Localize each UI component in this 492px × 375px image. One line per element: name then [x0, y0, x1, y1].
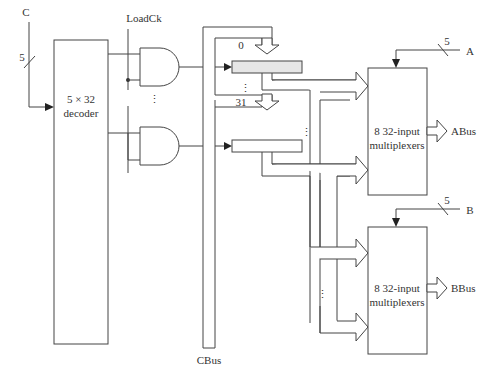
mux-b-label-line2: multiplexers: [370, 296, 425, 308]
and-gate-icon: [140, 127, 179, 165]
registers-ellipsis: ⋮: [240, 82, 251, 94]
register-31-label: 31: [236, 96, 247, 108]
b-width-label: 5: [444, 194, 450, 206]
mux-b-inputs-ellipsis: ⋮: [317, 288, 328, 300]
cbus: CBus: [197, 27, 272, 366]
arrow-head-icon: [45, 103, 54, 111]
c-input: C 5: [19, 6, 54, 111]
register-31-box: [232, 140, 302, 152]
register-0-box: [232, 61, 302, 73]
gates-ellipsis: ⋮: [149, 93, 160, 105]
mux-a-label-line1: 8 32-input: [374, 125, 420, 137]
decoder-box: [54, 40, 108, 344]
cbus-label: CBus: [197, 354, 221, 366]
decoder-block: 5 × 32 decoder: [54, 40, 108, 344]
register-31: 31: [215, 94, 302, 152]
bus-arrow-down-icon: [255, 94, 279, 110]
bus-arrow-down-icon: [255, 38, 279, 54]
bus-arrow-right-icon: [427, 120, 447, 142]
mux-a-inputs-ellipsis: ⋮: [301, 126, 312, 138]
arrow-head-icon: [392, 59, 400, 68]
abus-label: ABus: [451, 125, 476, 137]
mux-b-label-line1: 8 32-input: [374, 282, 420, 294]
decoder-label-line2: decoder: [64, 107, 99, 119]
register-0-outputs: [262, 73, 356, 247]
a-width-label: 5: [444, 35, 450, 47]
mux-a-label-line2: multiplexers: [370, 139, 425, 151]
c-label: C: [22, 6, 29, 18]
bus-arrow-right-icon: [310, 239, 368, 267]
bus-arrow-right-icon: [272, 72, 368, 100]
and-gate-icon: [140, 48, 179, 86]
bus-arrow-right-icon: [427, 277, 447, 299]
loadck-label: LoadCk: [126, 12, 162, 24]
arrow-head-icon: [224, 63, 232, 71]
bus-arrow-right-icon: [320, 306, 368, 341]
mux-a: 8 32-input multiplexers 5 A ABus: [368, 35, 476, 195]
a-label: A: [466, 45, 474, 57]
decoder-label-line1: 5 × 32: [67, 93, 95, 105]
and-gate-31: [108, 127, 203, 165]
register-0-label: 0: [238, 39, 244, 51]
and-gate-0: [108, 48, 203, 86]
b-label: B: [466, 204, 473, 216]
register-bank-diagram: C 5 5 × 32 decoder LoadCk ⋮: [0, 0, 492, 375]
arrow-head-icon: [224, 142, 232, 150]
bbus-label: BBus: [451, 282, 475, 294]
register-31-outputs: [262, 152, 356, 323]
arrow-head-icon: [392, 218, 400, 227]
register-0: 0: [215, 38, 302, 73]
mux-b: 8 32-input multiplexers 5 B BBus: [368, 194, 475, 354]
c-width-label: 5: [19, 51, 25, 63]
